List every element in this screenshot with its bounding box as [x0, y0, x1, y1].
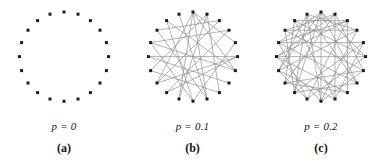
graph-node [205, 13, 208, 16]
graph-node [346, 91, 349, 94]
panel-letter-a: (a) [57, 142, 71, 155]
graph-node [227, 29, 230, 32]
graph-edge [166, 30, 228, 92]
graph-node [155, 29, 158, 32]
graph-edge [150, 14, 206, 70]
graph-node [364, 55, 367, 58]
graph-node [306, 98, 309, 101]
graph-edge [276, 21, 347, 57]
graph-node [155, 82, 158, 85]
graph-node [49, 98, 52, 101]
graph-edge [335, 43, 363, 99]
param-label-c: p = 0.2 [304, 120, 338, 133]
graph-node [99, 29, 102, 32]
graph-edge [166, 21, 192, 102]
graph-node [346, 19, 349, 22]
graph-node [36, 19, 39, 22]
graph-node [293, 91, 296, 94]
graph-node [77, 13, 80, 16]
graph-node [233, 69, 236, 72]
graph-edge [285, 14, 335, 30]
graph-node [277, 41, 280, 44]
graph-node [362, 41, 365, 44]
graph-node [284, 82, 287, 85]
graph-a [4, 0, 124, 118]
graph-node [320, 100, 323, 103]
graph-node [284, 29, 287, 32]
graph-edge [307, 57, 366, 99]
graph-edge [279, 21, 348, 43]
graph-node [165, 91, 168, 94]
graph-node [20, 69, 23, 72]
graph-node [149, 41, 152, 44]
graph-node [27, 29, 30, 32]
graph-node [356, 82, 359, 85]
graph-node [293, 19, 296, 22]
network-svg-a [4, 0, 124, 118]
graph-node [217, 19, 220, 22]
graph-node [334, 13, 337, 16]
graph-node [191, 11, 194, 14]
graph-node [18, 55, 21, 58]
graph-edge [193, 12, 207, 99]
graph-node [356, 29, 359, 32]
graph-node [99, 82, 102, 85]
node-layer [18, 11, 110, 103]
graph-node [105, 69, 108, 72]
graph-node [177, 98, 180, 101]
edge-layer [148, 12, 237, 101]
graph-edge [285, 30, 363, 70]
graph-node [63, 11, 66, 14]
graph-node [306, 13, 309, 16]
graph-node [177, 13, 180, 16]
graph-node [149, 69, 152, 72]
graph-edge [279, 71, 307, 99]
graph-node [205, 98, 208, 101]
graph-node [49, 13, 52, 16]
graph-node [77, 98, 80, 101]
graph-node [191, 100, 194, 103]
graph-node [27, 82, 30, 85]
figure-small-world-networks: p = 0 (a) p = 0.1 (b) p = 0.2 (c) [0, 0, 385, 164]
panel-b: p = 0.1 (b) [129, 0, 257, 164]
graph-node [165, 19, 168, 22]
graph-node [36, 91, 39, 94]
graph-b [133, 0, 253, 118]
graph-node [275, 55, 278, 58]
graph-node [362, 69, 365, 72]
graph-node [107, 55, 110, 58]
graph-edge [295, 21, 335, 99]
graph-node [20, 41, 23, 44]
graph-node [63, 100, 66, 103]
graph-node [105, 41, 108, 44]
panel-a: p = 0 (a) [0, 0, 128, 164]
network-svg-b [133, 0, 253, 118]
panel-letter-c: (c) [314, 142, 327, 155]
graph-node [236, 55, 239, 58]
graph-node [334, 98, 337, 101]
graph-edge [276, 57, 321, 102]
panel-c: p = 0.2 (c) [257, 0, 385, 164]
graph-node [277, 69, 280, 72]
graph-node [89, 91, 92, 94]
param-label-a: p = 0 [52, 120, 77, 133]
graph-node [320, 11, 323, 14]
graph-node [89, 19, 92, 22]
panel-letter-b: (b) [185, 142, 200, 155]
edge-layer [276, 12, 365, 101]
graph-edge [193, 12, 235, 71]
param-label-b: p = 0.1 [176, 120, 210, 133]
graph-c [261, 0, 381, 118]
network-svg-c [261, 0, 381, 118]
graph-edge [321, 12, 366, 57]
graph-node [227, 82, 230, 85]
graph-node [146, 55, 149, 58]
graph-node [233, 41, 236, 44]
graph-edge [207, 14, 219, 92]
graph-node [217, 91, 220, 94]
